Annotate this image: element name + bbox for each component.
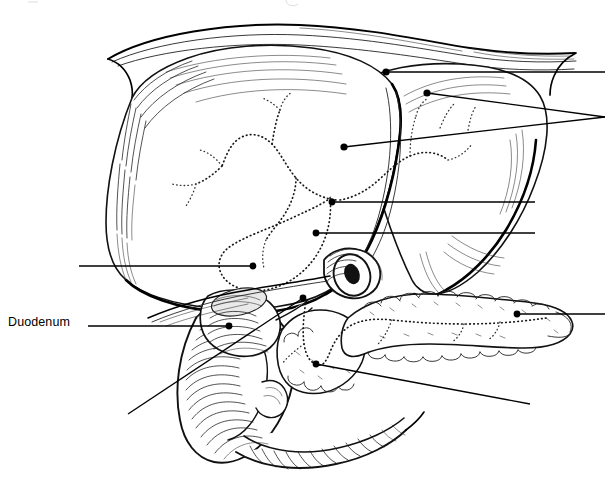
anatomy-illustration	[0, 0, 605, 494]
liver	[106, 45, 547, 313]
portal-vessel-stump	[324, 248, 382, 300]
scan-artifact-group	[28, 0, 298, 6]
label-duodenum: Duodenum	[8, 316, 70, 329]
anatomy-figure: Duodenum	[0, 0, 605, 494]
pancreas	[277, 291, 573, 393]
